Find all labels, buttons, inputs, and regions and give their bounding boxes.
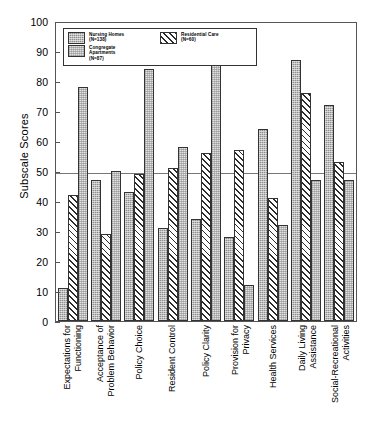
- bar-nursing-homes-4: [158, 228, 168, 321]
- bar-nursing-homes-6: [224, 237, 234, 321]
- bar-nursing-homes-5: [191, 219, 201, 321]
- y-tick-90: 90: [22, 46, 48, 58]
- y-tickmark-100: [55, 22, 60, 23]
- bar-congregate-apartments-1: [78, 87, 88, 321]
- bar-residential-care-1: [68, 195, 78, 321]
- legend-label-congregate: Congregate: [89, 45, 116, 50]
- bar-congregate-apartments-9: [344, 180, 354, 321]
- congregate-apartments-swatch-icon: [68, 45, 85, 57]
- bar-group-5: [189, 23, 222, 321]
- legend-item-congregate-apartments: CongregateApartments(N=87): [68, 45, 164, 61]
- bar-nursing-homes-7: [258, 129, 268, 321]
- bar-residential-care-2: [101, 234, 111, 321]
- y-tick-30: 30: [22, 226, 48, 238]
- x-label-cell-1: Expectations forFunctioning: [55, 325, 89, 425]
- bar-congregate-apartments-8: [311, 180, 321, 321]
- y-tickmark-0: [55, 322, 60, 323]
- x-label-cell-3: Policy Choice: [122, 325, 156, 425]
- figure: Subscale Scores 1009080706050403020100 N…: [0, 0, 371, 437]
- x-tick-label-7: Health Services: [268, 325, 279, 388]
- bar-nursing-homes-3: [124, 192, 134, 321]
- bar-nursing-homes-8: [291, 60, 301, 321]
- x-label-cell-8: Daily LivingAssistance: [290, 325, 324, 425]
- bar-group-7: [256, 23, 289, 321]
- y-tickmark-30: [55, 232, 60, 233]
- legend-label-nursing-homes: Nursing Homes: [89, 32, 124, 37]
- y-tick-100: 100: [22, 16, 48, 28]
- bar-groups: [56, 23, 356, 321]
- bar-group-8: [289, 23, 322, 321]
- x-tick-label-4: Resident Control: [167, 325, 178, 392]
- residential-care-swatch-icon: [160, 32, 177, 44]
- bar-congregate-apartments-3: [144, 69, 154, 321]
- x-label-cell-6: Provision forPrivacy: [223, 325, 257, 425]
- bar-residential-care-9: [334, 162, 344, 321]
- plot-area: [55, 22, 357, 322]
- bar-congregate-apartments-7: [278, 225, 288, 321]
- bar-group-9: [323, 23, 356, 321]
- x-axis-tick-labels: Expectations forFunctioningAcceptance of…: [55, 325, 357, 425]
- bar-residential-care-5: [201, 153, 211, 321]
- y-tickmark-40: [55, 202, 60, 203]
- bar-congregate-apartments-4: [178, 147, 188, 321]
- legend-label-apartments: Apartments: [89, 50, 116, 55]
- x-tick-label-3: Policy Choice: [134, 325, 145, 380]
- legend-item-nursing-homes: Nursing Homes(N=138): [68, 32, 160, 44]
- bar-group-6: [223, 23, 256, 321]
- legend-label-residential-care: Residential Care: [181, 32, 219, 37]
- x-label-cell-4: Resident Control: [156, 325, 190, 425]
- x-tick-label-8: Daily LivingAssistance: [296, 325, 317, 371]
- legend-n-congregate-apartments: (N=87): [89, 56, 104, 61]
- bar-group-4: [156, 23, 189, 321]
- x-tick-label-6: Provision forPrivacy: [229, 325, 250, 375]
- bar-residential-care-8: [301, 93, 311, 321]
- bar-congregate-apartments-5: [211, 42, 221, 321]
- bar-residential-care-6: [234, 150, 244, 321]
- y-tickmark-50: [55, 172, 60, 173]
- bar-residential-care-3: [134, 174, 144, 321]
- y-tick-50: 50: [22, 166, 48, 178]
- legend-n-nursing-homes: (N=138): [89, 37, 106, 42]
- bar-residential-care-4: [168, 168, 178, 321]
- y-tick-10: 10: [22, 286, 48, 298]
- y-tick-80: 80: [22, 76, 48, 88]
- x-tick-label-2: Acceptance ofProblem Behavior: [95, 325, 116, 397]
- y-tickmark-60: [55, 142, 60, 143]
- y-tick-20: 20: [22, 256, 48, 268]
- bar-congregate-apartments-2: [111, 171, 121, 321]
- legend-n-residential-care: (N=60): [181, 37, 196, 42]
- y-tickmark-70: [55, 112, 60, 113]
- bar-nursing-homes-9: [324, 105, 334, 321]
- bar-group-3: [123, 23, 156, 321]
- y-tick-0: 0: [22, 316, 48, 328]
- x-label-cell-2: Acceptance ofProblem Behavior: [89, 325, 123, 425]
- bar-group-1: [56, 23, 89, 321]
- y-tickmark-10: [55, 292, 60, 293]
- bar-group-2: [89, 23, 122, 321]
- y-tick-60: 60: [22, 136, 48, 148]
- y-tickmark-90: [55, 52, 60, 53]
- legend-item-residential-care: Residential Care(N=60): [160, 32, 252, 44]
- x-tick-label-1: Expectations forFunctioning: [61, 325, 82, 390]
- y-tick-70: 70: [22, 106, 48, 118]
- x-label-cell-5: Policy Clarity: [189, 325, 223, 425]
- x-tick-label-9: Social-RecreationalActivities: [330, 325, 351, 403]
- nursing-homes-swatch-icon: [68, 32, 85, 44]
- x-label-cell-9: Social-RecreationalActivities: [324, 325, 358, 425]
- y-tickmark-20: [55, 262, 60, 263]
- x-label-cell-7: Health Services: [256, 325, 290, 425]
- bar-nursing-homes-2: [91, 180, 101, 321]
- x-tick-label-5: Policy Clarity: [201, 325, 212, 377]
- y-tickmark-80: [55, 82, 60, 83]
- y-tick-40: 40: [22, 196, 48, 208]
- bar-congregate-apartments-6: [244, 285, 254, 321]
- legend: Nursing Homes(N=138) Residential Care(N=…: [63, 28, 257, 66]
- bar-residential-care-7: [268, 198, 278, 321]
